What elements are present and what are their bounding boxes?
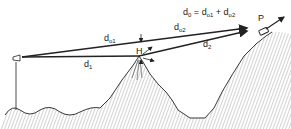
label-d01: do1 [104, 34, 116, 44]
direct-path-line [22, 28, 247, 57]
equation-label: d0 = do1 + do2 [183, 8, 235, 18]
diffracted-path-d1 [22, 56, 139, 57]
label-d1: d1 [84, 60, 92, 70]
label-d02: do2 [174, 23, 186, 33]
label-d2: d2 [203, 40, 211, 50]
label-P: P [258, 14, 264, 23]
transmitter-antenna [13, 55, 20, 110]
label-H: H [136, 47, 143, 56]
terrain-hatch [0, 32, 291, 129]
diagram-canvas [0, 0, 291, 129]
